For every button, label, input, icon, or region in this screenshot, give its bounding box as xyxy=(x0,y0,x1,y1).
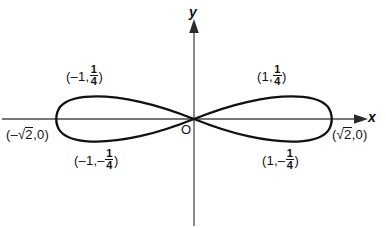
fraction-denominator: 4 xyxy=(90,75,98,87)
fraction-denominator: 4 xyxy=(105,159,113,171)
fraction-numerator: 1 xyxy=(273,64,281,75)
fraction-one-quarter: 14 xyxy=(90,64,98,88)
point-label-open: (1, xyxy=(257,69,273,84)
point-label-bottom-right: (1,–14) xyxy=(262,148,299,172)
point-label-close: ,0) xyxy=(33,127,49,142)
radical-sqrt-two: √2 xyxy=(18,127,33,141)
radicand: 2 xyxy=(343,127,351,141)
fraction-denominator: 4 xyxy=(286,159,294,171)
point-label-x-intercept-left: (–√2,0) xyxy=(6,127,49,141)
fraction-one-quarter: 14 xyxy=(105,148,113,172)
point-label-x-intercept-right: (√2,0) xyxy=(332,127,368,141)
fraction-one-quarter: 14 xyxy=(273,64,281,88)
point-label-close: ) xyxy=(99,69,104,84)
point-label-bottom-left: (–1,–14) xyxy=(74,148,119,172)
lemniscate-figure xyxy=(0,0,386,228)
point-label-top-left: (–1,14) xyxy=(66,64,103,88)
point-label-open: (–1, xyxy=(66,69,89,84)
fraction-one-quarter: 14 xyxy=(286,148,294,172)
point-label-open: (1,– xyxy=(262,153,285,168)
radical-sqrt-two: √2 xyxy=(337,127,352,141)
point-label-open: (–1,– xyxy=(74,153,105,168)
point-label-close: ,0) xyxy=(352,127,368,142)
point-label-close: ) xyxy=(282,69,287,84)
point-label-close: ) xyxy=(295,153,300,168)
fraction-numerator: 1 xyxy=(105,148,113,159)
fraction-numerator: 1 xyxy=(286,148,294,159)
point-label-open: (– xyxy=(6,127,18,142)
point-label-close: ) xyxy=(114,153,119,168)
origin-label: O xyxy=(181,123,191,136)
x-axis-arrowhead xyxy=(354,114,368,124)
fraction-denominator: 4 xyxy=(273,75,281,87)
radicand: 2 xyxy=(25,127,33,141)
point-label-top-right: (1,14) xyxy=(257,64,287,88)
radical-sign: √ xyxy=(337,127,344,141)
y-axis-label: y xyxy=(189,5,197,19)
fraction-numerator: 1 xyxy=(90,64,98,75)
y-axis-arrowhead xyxy=(189,19,199,33)
x-axis-label: x xyxy=(368,110,376,124)
radical-sign: √ xyxy=(18,127,25,141)
